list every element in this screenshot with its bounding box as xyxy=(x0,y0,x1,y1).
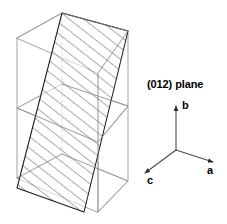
axis-label-b: b xyxy=(182,99,189,111)
axis-label-c: c xyxy=(147,174,153,186)
axis-triad xyxy=(145,106,213,173)
axis-c-line xyxy=(145,150,176,173)
crystal-plane-figure xyxy=(0,0,227,224)
plane-012-hatch xyxy=(0,0,227,224)
axis-label-a: a xyxy=(207,164,213,176)
plane-label: (012) plane xyxy=(147,78,203,90)
axis-a-line xyxy=(176,150,213,162)
figure-container: (012) plane b a c xyxy=(0,0,227,224)
plane-012 xyxy=(0,0,227,224)
